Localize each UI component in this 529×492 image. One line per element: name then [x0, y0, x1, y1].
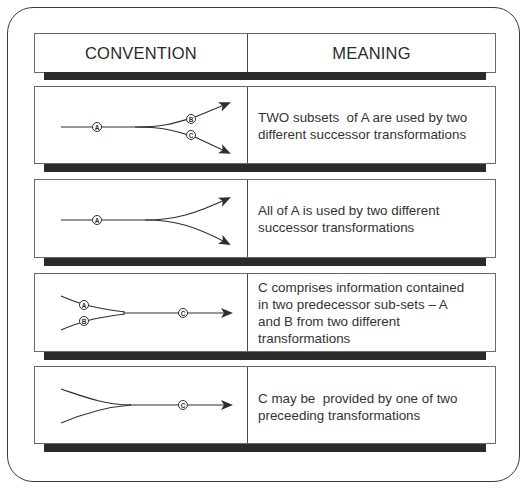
meaning-cell: TWO subsets of A are used by two differe…: [248, 87, 495, 163]
row-shadow: [44, 164, 486, 172]
svg-text:A: A: [82, 302, 87, 309]
split-all-icon: A: [35, 180, 248, 259]
header-shadow: [44, 72, 486, 80]
merge-subsets-icon: A B C: [35, 274, 248, 353]
meaning-cell: C comprises information contained in two…: [248, 274, 495, 351]
row-shadow: [44, 352, 486, 360]
meaning-cell: C may be provided by one of two preceedi…: [248, 367, 495, 443]
svg-text:A: A: [95, 124, 100, 131]
convention-diagram-merge-alternative: C: [35, 367, 248, 443]
svg-text:C: C: [181, 310, 186, 317]
convention-diagram-split-all: A: [35, 180, 248, 257]
svg-text:B: B: [189, 116, 194, 123]
svg-text:B: B: [82, 318, 87, 325]
header-convention: CONVENTION: [35, 34, 248, 72]
meaning-cell: All of A is used by two different succes…: [248, 180, 495, 257]
convention-diagram-merge-subsets: A B C: [35, 274, 248, 351]
table-row: C C may be provided by one of two precee…: [34, 366, 496, 444]
split-subsets-icon: A B C: [35, 87, 248, 165]
meaning-text: C may be provided by one of two preceedi…: [258, 390, 487, 424]
row-shadow: [44, 444, 486, 452]
svg-text:C: C: [189, 132, 194, 139]
meaning-text: TWO subsets of A are used by two differe…: [258, 109, 487, 143]
merge-alternative-icon: C: [35, 367, 248, 445]
meaning-text: All of A is used by two different succes…: [258, 202, 487, 236]
meaning-text: C comprises information contained in two…: [258, 279, 487, 347]
table-header: CONVENTION MEANING: [34, 33, 496, 73]
svg-text:C: C: [181, 402, 186, 409]
table-row: A B C TWO subsets of A are used by two d…: [34, 86, 496, 164]
table-row: A All of A is used by two different succ…: [34, 179, 496, 258]
table-row: A B C C comprises information contained …: [34, 273, 496, 352]
row-shadow: [44, 258, 486, 266]
svg-text:A: A: [95, 217, 100, 224]
header-meaning: MEANING: [248, 34, 495, 72]
convention-diagram-split-subsets: A B C: [35, 87, 248, 163]
